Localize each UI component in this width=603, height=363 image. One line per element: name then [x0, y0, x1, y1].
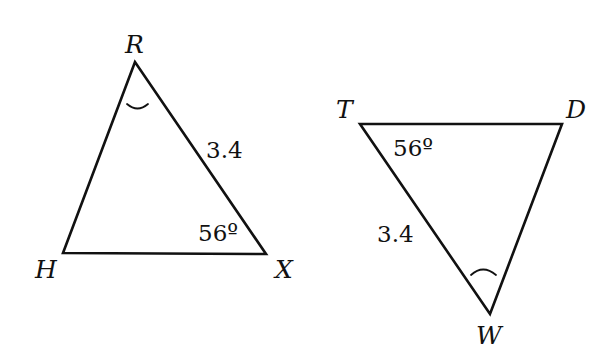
triangles-figure	[0, 0, 603, 363]
vertex-label-t: T	[336, 97, 353, 122]
angle-arc-r-icon	[127, 104, 148, 109]
vertex-label-w: W	[476, 323, 502, 348]
angle-measure-x: 56º	[198, 222, 238, 245]
angle-arc-w-icon	[471, 270, 496, 276]
geometry-diagram: R H X 3.4 56º T D W 56º 3.4	[0, 0, 603, 363]
vertex-label-d: D	[566, 97, 586, 122]
vertex-label-x: X	[275, 257, 293, 282]
triangle-tdw	[360, 124, 562, 314]
angle-measure-t: 56º	[393, 137, 433, 160]
side-length-rx: 3.4	[206, 139, 243, 162]
vertex-label-h: H	[35, 257, 57, 282]
vertex-label-r: R	[125, 32, 144, 57]
side-length-tw: 3.4	[377, 223, 414, 246]
